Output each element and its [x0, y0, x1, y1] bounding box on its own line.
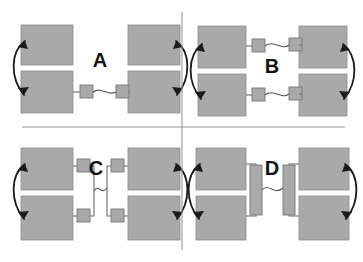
- domain-block: [21, 71, 73, 113]
- linker-square: [80, 85, 93, 98]
- flexible-linker-line: [262, 187, 283, 190]
- domain-block: [198, 74, 246, 116]
- linker-square: [116, 85, 129, 98]
- linker-square: [252, 88, 265, 101]
- panel-label-d: D: [265, 157, 279, 179]
- domain-block: [196, 148, 246, 190]
- linker-square: [252, 39, 265, 52]
- domain-block: [299, 148, 349, 190]
- elongated-linker-bar: [250, 165, 262, 215]
- domain-block: [196, 196, 246, 240]
- domain-block: [299, 26, 347, 68]
- domain-block: [21, 148, 73, 190]
- panel-label-c: C: [89, 157, 103, 179]
- linker-square: [111, 209, 124, 222]
- schematic-figure: A B: [0, 0, 363, 262]
- linker-square: [111, 159, 124, 172]
- domain-block: [128, 196, 180, 240]
- domain-block: [128, 25, 180, 65]
- domain-block: [128, 148, 180, 190]
- linker-joining-line: [107, 166, 111, 216]
- panel-label-b: B: [265, 55, 279, 77]
- flexible-linker-line: [265, 93, 289, 96]
- panel-d: D: [189, 148, 357, 240]
- domain-block: [198, 26, 246, 68]
- domain-block: [21, 25, 73, 65]
- flexible-linker-line: [94, 188, 107, 191]
- flexible-linker-line: [93, 90, 116, 93]
- domain-block: [21, 196, 73, 240]
- domain-block: [128, 71, 180, 113]
- panel-a: A: [14, 25, 188, 113]
- linker-square: [77, 209, 90, 222]
- elongated-linker-bar: [283, 165, 295, 215]
- figure-root: A B: [0, 0, 363, 262]
- domain-block: [299, 196, 349, 240]
- flexible-linker-line: [265, 44, 289, 47]
- panel-b: B: [191, 26, 355, 116]
- domain-block: [299, 74, 347, 116]
- panel-c: C: [14, 148, 188, 240]
- panel-label-a: A: [93, 49, 107, 71]
